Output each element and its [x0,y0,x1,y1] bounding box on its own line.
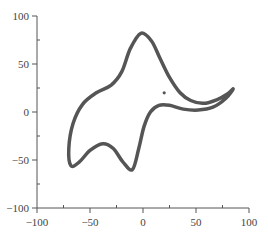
x-tick-label: 0 [140,216,146,228]
x-tick-label: −100 [26,216,49,228]
x-tick-label: 50 [191,216,203,228]
y-tick-label: −50 [12,154,30,166]
chart: −100−50050100−100−50050100 [0,0,268,238]
x-tick-label: −50 [81,216,99,228]
x-tick-label: 100 [241,216,258,228]
y-tick-label: 100 [13,10,30,22]
y-tick-label: 0 [24,106,30,118]
data-point [163,91,166,94]
plot-area [69,33,233,170]
closed-curve-line [69,33,233,170]
y-tick-label: 50 [18,58,30,70]
y-tick-label: −100 [6,202,29,214]
